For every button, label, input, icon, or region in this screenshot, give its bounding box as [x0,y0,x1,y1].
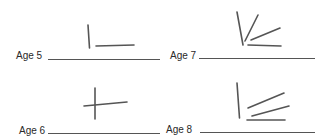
age-8-figure [237,83,289,120]
age-6-figure [84,88,127,119]
age-7-figure [237,12,281,46]
drawing-figures [0,0,327,139]
age-5-figure [88,25,134,48]
